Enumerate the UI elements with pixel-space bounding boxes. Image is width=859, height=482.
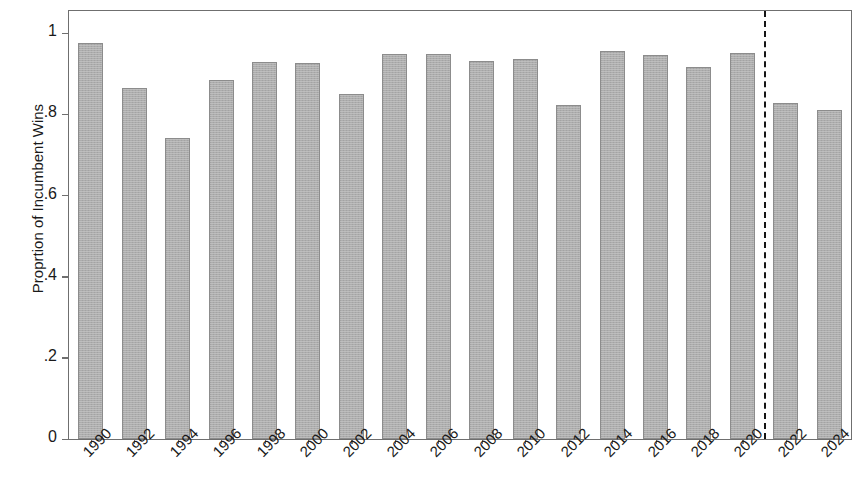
y-tick-mark <box>62 357 69 358</box>
bar-texture <box>427 55 450 438</box>
bar-texture <box>383 55 406 438</box>
bar-texture <box>731 54 754 438</box>
y-tick-label: 1 <box>48 22 57 40</box>
bar-texture <box>340 95 363 438</box>
bar-texture <box>79 44 102 438</box>
bar <box>78 43 103 439</box>
bar <box>730 53 755 439</box>
bar <box>382 54 407 439</box>
bar-texture <box>644 56 667 438</box>
bar <box>643 55 668 439</box>
bar <box>295 63 320 439</box>
y-tick-label: .8 <box>44 103 57 121</box>
bar <box>513 59 538 439</box>
bar-texture <box>123 89 146 438</box>
bar-texture <box>818 111 841 438</box>
bar-texture <box>774 104 797 438</box>
bar-texture <box>557 106 580 438</box>
y-tick-mark <box>62 276 69 277</box>
bar <box>339 94 364 439</box>
bar <box>469 61 494 439</box>
forecast-divider-line <box>764 11 766 439</box>
y-tick-label: 0 <box>48 428 57 446</box>
bar-texture <box>210 81 233 438</box>
bar <box>600 51 625 439</box>
bar-chart-figure: Proprtion of Incumbent Wins 0.2.4.6.81 1… <box>0 0 859 482</box>
bar-texture <box>253 63 276 438</box>
y-tick-mark <box>62 195 69 196</box>
y-tick-mark <box>62 114 69 115</box>
bar <box>817 110 842 439</box>
bar <box>165 138 190 439</box>
bar <box>556 105 581 439</box>
bar <box>773 103 798 439</box>
bar <box>209 80 234 439</box>
y-tick-mark <box>62 439 69 440</box>
bar-texture <box>601 52 624 438</box>
bar-texture <box>470 62 493 438</box>
bar-texture <box>514 60 537 438</box>
bar <box>252 62 277 439</box>
y-tick-label: .6 <box>44 185 57 203</box>
bar-texture <box>296 64 319 438</box>
bar <box>122 88 147 439</box>
bar <box>686 67 711 439</box>
y-tick-label: .4 <box>44 266 57 284</box>
bar <box>426 54 451 439</box>
y-tick-mark <box>62 33 69 34</box>
plot-area: 0.2.4.6.81 <box>68 10 852 440</box>
bar-texture <box>687 68 710 438</box>
y-tick-label: .2 <box>44 347 57 365</box>
bar-texture <box>166 139 189 438</box>
